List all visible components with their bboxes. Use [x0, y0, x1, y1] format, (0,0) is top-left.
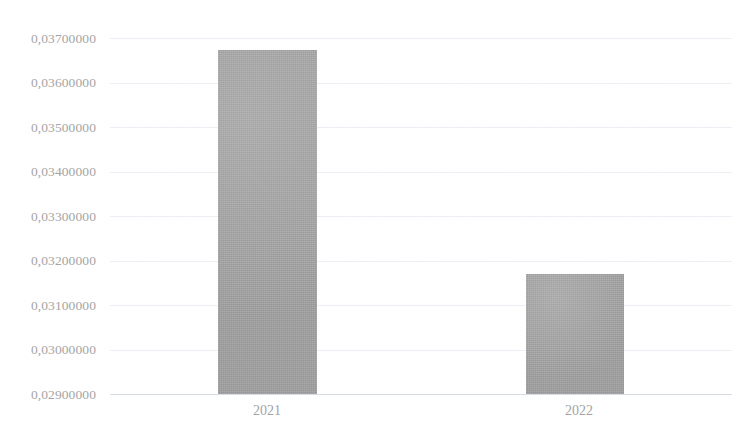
gridline-0031 [110, 305, 732, 306]
gridline-0034 [110, 172, 732, 173]
y-axis-tick-label: 0,03300000 [0, 210, 96, 224]
gridline-0033 [110, 216, 732, 217]
plot-area [110, 30, 732, 394]
y-axis-tick-label: 0,03100000 [0, 299, 96, 313]
y-axis-tick-label: 0,03600000 [0, 76, 96, 90]
y-axis-tick-label: 0,03200000 [0, 254, 96, 268]
y-axis-tick-label: 0,03500000 [0, 121, 96, 135]
gridline-0032 [110, 261, 732, 262]
x-axis-tick-label-2021: 2021 [187, 404, 347, 418]
bar-chart: 0,03700000 0,03600000 0,03500000 0,03400… [0, 0, 748, 434]
y-axis-tick-label: 0,02900000 [0, 388, 96, 402]
x-axis-tick-label-2022: 2022 [499, 404, 659, 418]
y-axis-tick-label: 0,03400000 [0, 165, 96, 179]
bar-2022 [526, 274, 624, 394]
gridline-0035 [110, 127, 732, 128]
gridline-0036 [110, 83, 732, 84]
bar-2021 [218, 50, 317, 394]
gridline-0030 [110, 350, 732, 351]
y-axis-tick-label: 0,03700000 [0, 32, 96, 46]
y-axis-tick-label: 0,03000000 [0, 343, 96, 357]
x-axis-line [110, 394, 732, 395]
gridline-0037 [110, 38, 732, 39]
